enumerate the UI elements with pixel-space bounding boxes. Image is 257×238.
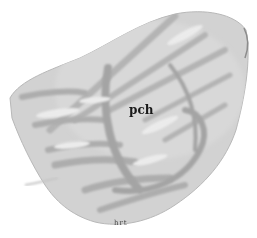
structure-label-bottom: hrt [114, 219, 128, 227]
structure-label-pch: pch [129, 103, 153, 117]
microscopy-figure: pch hrt [0, 0, 257, 238]
specimen-image [0, 0, 257, 238]
